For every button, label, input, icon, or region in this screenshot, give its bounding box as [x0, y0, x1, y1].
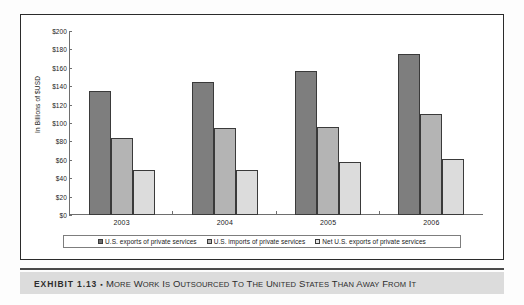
- exhibit-caption-bar: EXHIBIT 1.13▪MORE WORK IS OUTSOURCED TO …: [20, 272, 504, 294]
- bar-groups: [70, 31, 483, 215]
- bar-2004-series0[interactable]: [192, 82, 214, 215]
- x-axis-label-2003: 2003: [70, 219, 173, 226]
- chart-figure: In Billions of $USD $200$180$160$140$120…: [20, 14, 504, 260]
- legend-swatch-icon: [207, 239, 212, 244]
- x-axis-label-2004: 2004: [173, 219, 276, 226]
- x-axis-labels: 2003200420052006: [70, 219, 483, 226]
- y-axis-tick-label: $180: [21, 46, 67, 53]
- bar-2005-series1[interactable]: [317, 127, 339, 215]
- exhibit-caption-text: EXHIBIT 1.13▪MORE WORK IS OUTSOURCED TO …: [20, 278, 416, 289]
- y-axis-tick-mark: [69, 215, 72, 216]
- y-axis-tick-label: $160: [21, 64, 67, 71]
- legend-swatch-icon: [98, 239, 103, 244]
- bar-2006-series1[interactable]: [420, 114, 442, 215]
- y-axis-tick-label: $80: [21, 138, 67, 145]
- plot-wrapper: In Billions of $USD $200$180$160$140$120…: [21, 15, 503, 259]
- y-axis-tick-label: $140: [21, 83, 67, 90]
- legend-item-series0[interactable]: U.S. exports of private services: [98, 238, 197, 245]
- legend-item-series2[interactable]: Net U.S. exports of private services: [315, 238, 426, 245]
- exhibit-caption-title: MORE WORK IS OUTSOURCED TO THE UNITED ST…: [106, 278, 416, 289]
- y-axis-tick-label: $20: [21, 193, 67, 200]
- bar-2004-series2[interactable]: [236, 170, 258, 215]
- bar-2003-series1[interactable]: [111, 138, 133, 215]
- y-axis-tick-label: $60: [21, 156, 67, 163]
- x-axis-label-2006: 2006: [380, 219, 483, 226]
- bar-group-bars: [295, 31, 361, 215]
- y-axis-tick-label: $200: [21, 28, 67, 35]
- bar-group-bars: [89, 31, 155, 215]
- bar-2005-series0[interactable]: [295, 71, 317, 215]
- bar-group-2005: [277, 31, 380, 215]
- bar-group-2006: [380, 31, 483, 215]
- bar-group-bars: [192, 31, 258, 215]
- bar-2003-series2[interactable]: [133, 170, 155, 215]
- legend-swatch-icon: [315, 239, 320, 244]
- y-axis-tick-label: $0: [21, 212, 67, 219]
- exhibit-number: EXHIBIT 1.13: [34, 279, 97, 289]
- y-axis-tick-label: $40: [21, 175, 67, 182]
- legend-item-series1[interactable]: U.S. imports of private services: [207, 238, 306, 245]
- bar-group-bars: [398, 31, 464, 215]
- y-axis-tick-label: $100: [21, 120, 67, 127]
- bar-2004-series1[interactable]: [214, 128, 236, 215]
- bar-2005-series2[interactable]: [339, 162, 361, 215]
- bar-2006-series0[interactable]: [398, 54, 420, 215]
- bar-2006-series2[interactable]: [442, 159, 464, 215]
- y-axis-tick-label: $120: [21, 101, 67, 108]
- bar-group-2003: [70, 31, 173, 215]
- caption-separator-icon: ▪: [97, 281, 106, 288]
- bar-2003-series0[interactable]: [89, 91, 111, 215]
- legend-label: U.S. exports of private services: [105, 238, 197, 245]
- chart-legend: U.S. exports of private servicesU.S. imp…: [63, 235, 461, 248]
- caption-divider: [20, 268, 504, 270]
- bar-group-2004: [173, 31, 276, 215]
- legend-label: Net U.S. exports of private services: [322, 238, 426, 245]
- legend-label: U.S. imports of private services: [214, 238, 306, 245]
- x-axis-label-2005: 2005: [277, 219, 380, 226]
